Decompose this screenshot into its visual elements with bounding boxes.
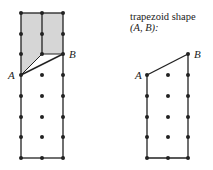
left-label-b: B — [69, 48, 76, 60]
segment-ab-right — [147, 54, 188, 75]
caption-line-2: (A, B): — [130, 22, 196, 33]
caption: trapezoid shape (A, B): — [130, 11, 196, 33]
trapezoid-outline — [147, 54, 188, 158]
right-label-a: A — [134, 69, 142, 81]
left-panel: A B — [7, 11, 76, 160]
left-label-a: A — [7, 69, 15, 81]
grid-dots-right — [145, 52, 190, 160]
right-label-b: B — [194, 48, 201, 60]
right-panel: A B — [134, 48, 201, 160]
caption-line-1: trapezoid shape — [130, 11, 196, 22]
